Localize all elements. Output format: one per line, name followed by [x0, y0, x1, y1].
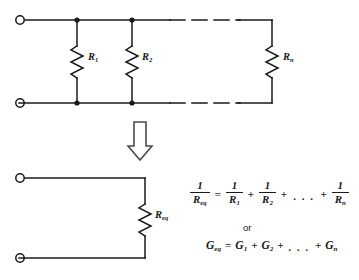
resistor-r2-zigzag: [126, 46, 138, 78]
junction-dot: [74, 100, 79, 105]
resistor-rn-zigzag: [266, 46, 278, 78]
top-left-terminal-top-circuit: [16, 16, 24, 24]
transformation-arrow-icon: [128, 122, 152, 160]
circuit-figure: [0, 0, 359, 280]
junction-dot: [129, 100, 134, 105]
junction-dot: [74, 17, 79, 22]
resistor-req-zigzag: [139, 204, 151, 236]
top-left-terminal-bottom-circuit: [16, 174, 24, 182]
resistor-r1-zigzag: [71, 46, 83, 78]
junction-dot: [129, 17, 134, 22]
